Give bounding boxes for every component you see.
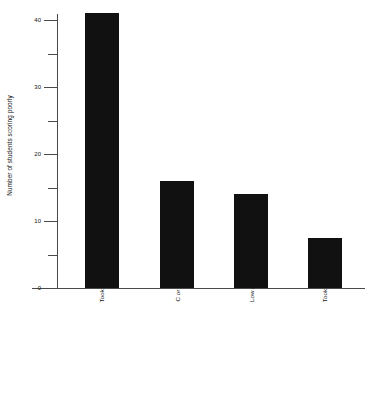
x-axis-line [32,288,365,289]
x-axis-category-label: Low ACT/SAT [245,293,257,401]
x-axis-category-label: Took test four months or more after AP [96,293,108,401]
y-axis-tick-label: 0 [13,285,41,291]
y-axis-tick-label: 20 [13,151,41,157]
bar [160,181,194,288]
y-axis-tick-label: 10 [13,218,41,224]
bar [308,238,342,288]
y-axis-major-tick [44,221,57,222]
x-axis-category-label: Took AP elsewhere [319,293,331,401]
y-axis-minor-tick [48,54,57,55]
y-axis-title: Number of students scoring poorly [0,0,18,290]
y-axis-minor-tick [48,255,57,256]
x-axis-category-label: C or below in AP courses [171,293,183,401]
y-axis-tick-label: 30 [13,84,41,90]
y-axis-major-tick [44,154,57,155]
y-axis-tick-label: 40 [13,17,41,23]
y-axis-minor-tick [48,188,57,189]
bar-chart: Number of students scoring poorly 010203… [0,0,366,404]
bar [234,194,268,288]
y-axis-title-text: Number of students scoring poorly [6,95,13,196]
bar [85,13,119,288]
y-axis-major-tick [44,288,57,289]
plot-area [57,14,365,288]
y-axis-major-tick [44,87,57,88]
y-axis-major-tick [44,20,57,21]
y-axis-minor-tick [48,121,57,122]
